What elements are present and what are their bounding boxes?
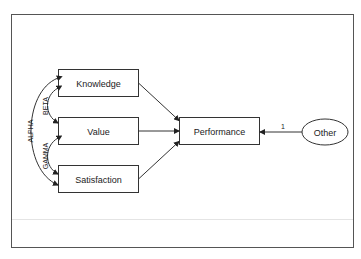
node-satisfaction-label: Satisfaction [75, 175, 122, 185]
path-diagram-canvas: Knowledge Value Satisfaction Performance… [0, 0, 361, 259]
node-performance[interactable]: Performance [180, 118, 260, 145]
covariance-gamma [48, 138, 59, 174]
node-value-label: Value [87, 127, 109, 137]
edge-knowledge-performance [139, 83, 180, 121]
edge-satisfaction-performance [139, 142, 180, 180]
node-value[interactable]: Value [59, 118, 139, 145]
node-knowledge-label: Knowledge [76, 79, 121, 89]
covariance-gamma-label: GAMMA [42, 142, 49, 169]
covariance-alpha-label: ALPHA [27, 119, 34, 142]
node-performance-label: Performance [194, 127, 246, 137]
node-other-label: Other [314, 128, 337, 138]
node-other[interactable]: Other [302, 119, 348, 145]
covariance-beta [48, 88, 59, 123]
node-knowledge[interactable]: Knowledge [59, 70, 139, 97]
edge-other-performance-label: 1 [281, 123, 285, 130]
covariance-beta-label: BETA [42, 97, 49, 115]
node-satisfaction[interactable]: Satisfaction [59, 166, 139, 193]
